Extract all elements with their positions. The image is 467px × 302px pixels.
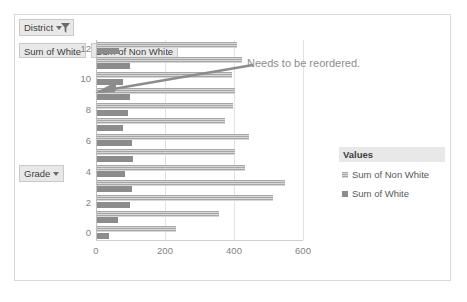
bar-non-white[interactable]: [97, 180, 285, 186]
pivot-chart-frame: District Sum of White Sum of Non White G…: [14, 14, 451, 281]
legend-swatch-icon: [342, 191, 348, 197]
value-tick-label: 0: [76, 245, 116, 256]
annotation-text: Needs to be reordered.: [247, 57, 360, 69]
legend-item[interactable]: Sum of White: [339, 188, 445, 200]
category-tick-label: 4: [67, 167, 91, 176]
bar-white[interactable]: [97, 186, 132, 192]
bar-white[interactable]: [97, 217, 118, 223]
bar-white[interactable]: [97, 110, 128, 116]
value-tick-label: 600: [283, 245, 323, 256]
legend-items: Sum of Non WhiteSum of White: [339, 169, 445, 200]
bar-white[interactable]: [97, 233, 109, 239]
bar-non-white[interactable]: [97, 118, 225, 124]
gridline: [303, 40, 304, 240]
bar-white[interactable]: [97, 156, 133, 162]
value-tick-label: 400: [214, 245, 254, 256]
category-tick-label: 10: [67, 74, 91, 83]
bar-non-white[interactable]: [97, 226, 176, 232]
chevron-down-icon: [53, 172, 59, 176]
category-tick-label: 6: [67, 136, 91, 145]
bar-white[interactable]: [97, 125, 123, 131]
bar-non-white[interactable]: [97, 211, 219, 217]
bar-non-white[interactable]: [97, 42, 237, 48]
district-filter-label: District: [24, 22, 53, 33]
legend-swatch-icon: [342, 172, 348, 178]
bar-white[interactable]: [97, 171, 125, 177]
bar-white[interactable]: [97, 202, 130, 208]
bar-non-white[interactable]: [97, 103, 233, 109]
legend-item-label: Sum of Non White: [352, 169, 429, 181]
annotation-arrow-icon: [95, 63, 255, 95]
legend-title: Values: [339, 147, 445, 162]
bar-white[interactable]: [97, 140, 132, 146]
value-tick-label: 200: [145, 245, 185, 256]
bar-non-white[interactable]: [97, 149, 235, 155]
legend-item-label: Sum of White: [352, 188, 409, 200]
chart-legend: Values Sum of Non WhiteSum of White: [339, 147, 445, 200]
bar-non-white[interactable]: [97, 165, 245, 171]
category-tick-label: 12: [67, 44, 91, 53]
funnel-icon: [61, 23, 70, 33]
category-axis-line: [96, 240, 303, 241]
bar-non-white[interactable]: [97, 57, 242, 63]
legend-item[interactable]: Sum of Non White: [339, 169, 445, 181]
grade-field-button[interactable]: Grade: [19, 165, 64, 182]
district-filter-button[interactable]: District: [19, 19, 74, 36]
category-tick-label: 8: [67, 105, 91, 114]
bar-white[interactable]: [97, 48, 119, 54]
bar-white[interactable]: [97, 94, 130, 100]
bar-non-white[interactable]: [97, 195, 273, 201]
bar-non-white[interactable]: [97, 134, 249, 140]
category-tick-label: 2: [67, 198, 91, 207]
category-tick-label: 0: [67, 228, 91, 237]
grade-field-label: Grade: [24, 168, 50, 179]
